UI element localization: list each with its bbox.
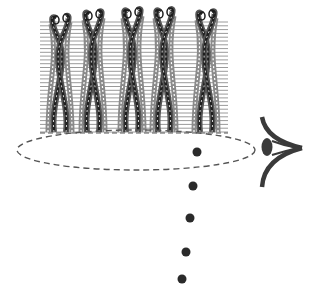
- diagram-svg: [0, 0, 312, 304]
- trail-dot: [186, 214, 195, 223]
- diagram-canvas: [0, 0, 312, 304]
- trail-dot: [182, 248, 191, 257]
- dashed-ellipse-boundary: [17, 130, 255, 170]
- strand-pair: [81, 10, 105, 132]
- trail-dot: [178, 275, 187, 284]
- eye-pupil: [262, 138, 273, 156]
- trail-dot: [193, 148, 202, 157]
- eye-icon: [262, 117, 303, 187]
- strand-pair: [194, 10, 218, 132]
- trail-dot: [189, 182, 198, 191]
- strand-pair: [48, 14, 72, 132]
